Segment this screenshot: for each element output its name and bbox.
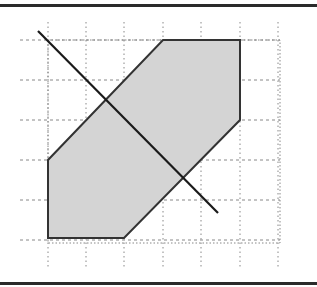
diagram: [0, 0, 317, 287]
